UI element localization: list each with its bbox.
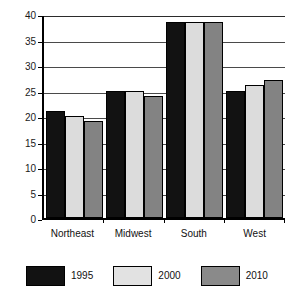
bar-group xyxy=(104,16,164,218)
legend-swatch-2010 xyxy=(201,266,240,286)
y-tick-label: 40 xyxy=(10,11,36,21)
bar-northeast-2000 xyxy=(65,116,84,218)
bar-midwest-1995 xyxy=(106,91,125,218)
plot-area xyxy=(42,16,285,220)
bar-northeast-1995 xyxy=(46,111,65,218)
legend-swatch-2000 xyxy=(113,266,152,286)
y-tick-label: 25 xyxy=(10,88,36,98)
legend-item-2010[interactable]: 2010 xyxy=(201,266,288,286)
bar-group xyxy=(44,16,104,218)
y-tick-mark xyxy=(38,220,42,221)
x-tick-mark xyxy=(284,218,285,223)
x-tick-mark xyxy=(103,218,104,223)
y-tick-label: 20 xyxy=(10,113,36,123)
bar-midwest-2010 xyxy=(144,96,163,218)
bar-groups xyxy=(44,16,285,218)
x-axis-labels: NortheastMidwestSouthWest xyxy=(42,228,285,240)
y-tick-label: 0 xyxy=(10,215,36,225)
bar-northeast-2010 xyxy=(84,121,103,218)
legend-label-2000: 2000 xyxy=(158,271,180,281)
legend-item-1995[interactable]: 1995 xyxy=(26,266,113,286)
clipped-header-text xyxy=(6,0,206,6)
bar-midwest-2000 xyxy=(125,91,144,218)
legend-label-1995: 1995 xyxy=(71,271,93,281)
y-tick-label: 15 xyxy=(10,139,36,149)
bar-group xyxy=(165,16,225,218)
x-axis-label-northeast: Northeast xyxy=(42,228,103,240)
bar-west-2000 xyxy=(245,85,264,218)
y-tick-label: 30 xyxy=(10,62,36,72)
x-tick-mark xyxy=(224,218,225,223)
bar-group xyxy=(225,16,285,218)
x-tick-mark xyxy=(164,218,165,223)
y-tick-label: 10 xyxy=(10,164,36,174)
bar-south-1995 xyxy=(166,22,185,218)
bar-south-2010 xyxy=(204,22,223,218)
legend-swatch-1995 xyxy=(26,266,65,286)
y-tick-label: 5 xyxy=(10,190,36,200)
legend-label-2010: 2010 xyxy=(246,271,268,281)
chart-legend: 199520002010 xyxy=(26,266,288,286)
x-axis-label-west: West xyxy=(224,228,285,240)
bar-west-2010 xyxy=(264,80,283,218)
bar-south-2000 xyxy=(185,22,204,218)
legend-item-2000[interactable]: 2000 xyxy=(113,266,200,286)
bar-west-1995 xyxy=(226,91,245,218)
x-axis-label-midwest: Midwest xyxy=(103,228,164,240)
y-tick-label: 35 xyxy=(10,37,36,47)
x-axis-label-south: South xyxy=(164,228,225,240)
bar-chart: 0510152025303540 NortheastMidwestSouthWe… xyxy=(0,0,295,302)
